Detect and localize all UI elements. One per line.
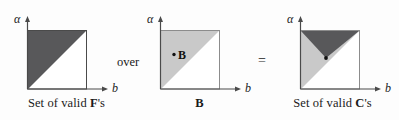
panel-valid-f: α b Set of valid F's	[0, 0, 133, 120]
caption-symbol: B	[195, 96, 203, 110]
caption-prefix: Set of valid	[28, 96, 90, 110]
caption-suffix: 's	[364, 96, 371, 110]
panel-valid-c: α b Set of valid C's	[266, 0, 399, 120]
x-axis-label: b	[245, 81, 251, 95]
connector-over: over	[117, 55, 139, 70]
point-marker-icon	[172, 53, 175, 56]
caption-prefix: Set of valid	[293, 96, 355, 110]
panel-valid-f-caption: Set of valid F's	[0, 96, 133, 111]
x-axis-arrowhead-icon	[375, 87, 381, 92]
x-axis-arrowhead-icon	[102, 87, 108, 92]
caption-symbol: F	[90, 96, 98, 110]
panel-valid-c-caption: Set of valid C's	[266, 96, 399, 111]
connector-equals: =	[258, 53, 266, 69]
caption-suffix: 's	[98, 96, 105, 110]
y-axis-arrowhead-icon	[298, 16, 303, 22]
point-label: B	[178, 48, 186, 62]
x-axis-label: b	[385, 81, 391, 95]
point-marker-icon	[324, 56, 328, 60]
y-axis-label: α	[14, 12, 21, 26]
x-axis-label: b	[112, 81, 118, 95]
x-axis-arrowhead-icon	[235, 87, 241, 92]
panel-set-b: B α b B	[133, 0, 266, 120]
panel-set-b-caption: B	[133, 96, 266, 111]
y-axis-arrowhead-icon	[158, 16, 163, 22]
y-axis-label: α	[287, 12, 294, 26]
y-axis-arrowhead-icon	[25, 16, 30, 22]
y-axis-label: α	[147, 12, 154, 26]
minkowski-sum-figure: α b Set of valid F's B α b B	[0, 0, 399, 120]
